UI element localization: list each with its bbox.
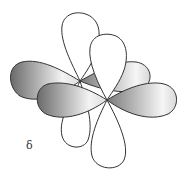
- front-left-lobe: [37, 83, 107, 117]
- back-d-orbital: [11, 13, 151, 147]
- front-lower-lobe: [91, 100, 126, 168]
- front-d-orbital: [37, 34, 176, 168]
- delta-label: δ: [26, 139, 33, 152]
